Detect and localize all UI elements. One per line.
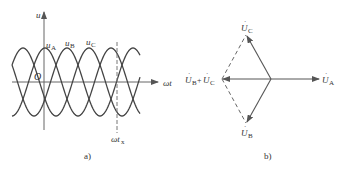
caption-b: b)	[264, 151, 272, 161]
label-omega-tx: ωt x	[111, 134, 125, 146]
svg-text:x: x	[121, 138, 125, 146]
dashed-side-b	[222, 79, 246, 123]
svg-text:U: U	[241, 23, 248, 33]
x-axis-label: ωt	[163, 78, 172, 88]
svg-text:U: U	[322, 75, 329, 85]
svg-text:U: U	[185, 75, 192, 85]
svg-text:B: B	[70, 42, 75, 50]
svg-text:C: C	[210, 79, 215, 87]
phasor-u-b	[247, 79, 271, 122]
label-sum-b-c: · U B + · U C	[185, 70, 215, 87]
svg-text:C: C	[91, 41, 96, 49]
label-u-a: u A	[46, 40, 56, 52]
svg-text:A: A	[51, 44, 56, 52]
svg-text:B: B	[248, 132, 253, 140]
phasor-figure: · U C · U A · U B · U B + · U C b)	[185, 18, 334, 161]
label-u-b-phasor: · U B	[241, 123, 253, 140]
waveform-figure: u O ωt u A u B u C ωt x a)	[12, 10, 172, 161]
caption-a: a)	[84, 151, 91, 161]
phasor-u-c	[247, 36, 271, 79]
svg-text:+: +	[197, 76, 202, 85]
svg-text:U: U	[203, 75, 210, 85]
label-u-c-phasor: · U C	[241, 18, 253, 35]
three-phase-diagram: u O ωt u A u B u C ωt x a)	[0, 0, 343, 170]
label-u-c: u C	[86, 37, 96, 49]
svg-text:C: C	[248, 27, 253, 35]
label-u-a-phasor: · U A	[322, 70, 334, 87]
svg-text:A: A	[329, 79, 334, 87]
svg-text:U: U	[241, 128, 248, 138]
origin-label: O	[34, 71, 41, 82]
svg-text:ωt: ωt	[111, 134, 120, 144]
y-axis-label: u	[36, 10, 41, 20]
dashed-side-c	[222, 35, 246, 79]
